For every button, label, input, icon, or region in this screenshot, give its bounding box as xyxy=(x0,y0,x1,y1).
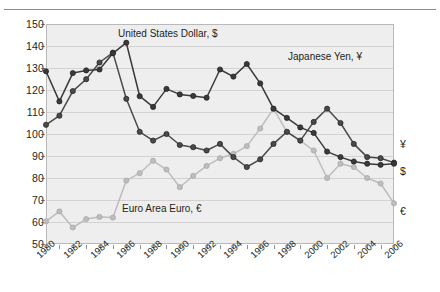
data-point xyxy=(204,148,209,153)
data-point xyxy=(338,120,343,125)
data-point xyxy=(258,157,263,162)
data-point xyxy=(311,119,316,124)
data-point xyxy=(97,67,102,72)
data-point xyxy=(84,77,89,82)
data-point xyxy=(244,61,249,66)
data-point xyxy=(271,141,276,146)
data-point xyxy=(57,99,62,104)
data-point xyxy=(84,68,89,73)
data-point xyxy=(217,156,222,161)
currency-index-line-chart: 5060708090100110120130140150 19801982198… xyxy=(0,0,440,292)
data-point xyxy=(378,162,383,167)
data-point xyxy=(217,67,222,72)
data-point xyxy=(365,155,370,160)
series-layer xyxy=(0,0,440,292)
data-point xyxy=(338,155,343,160)
data-point xyxy=(258,126,263,131)
series-line xyxy=(46,109,394,228)
data-point xyxy=(124,178,129,183)
data-point xyxy=(43,219,48,224)
data-point xyxy=(110,51,115,56)
data-point xyxy=(191,93,196,98)
data-point xyxy=(378,181,383,186)
data-point xyxy=(325,175,330,180)
series-€ xyxy=(43,106,396,230)
end-label-dollar: $ xyxy=(400,165,406,177)
data-point xyxy=(271,106,276,111)
data-point xyxy=(124,96,129,101)
data-point xyxy=(391,161,396,166)
data-point xyxy=(258,81,263,86)
data-point xyxy=(70,225,75,230)
data-point xyxy=(97,214,102,219)
data-point xyxy=(97,60,102,65)
data-point xyxy=(391,201,396,206)
data-point xyxy=(151,158,156,163)
data-point xyxy=(164,86,169,91)
data-point xyxy=(43,69,48,74)
annotation-japanese-yen: Japanese Yen, ¥ xyxy=(288,51,362,62)
data-point xyxy=(325,149,330,154)
data-point xyxy=(151,104,156,109)
data-point xyxy=(365,161,370,166)
data-point xyxy=(244,144,249,149)
data-point xyxy=(298,138,303,143)
end-label-yen: ¥ xyxy=(400,138,406,150)
data-point xyxy=(298,125,303,130)
data-point xyxy=(124,40,129,45)
data-point xyxy=(164,167,169,172)
data-point xyxy=(351,159,356,164)
data-point xyxy=(244,164,249,169)
annotation-euro-area-euro: Euro Area Euro, € xyxy=(122,203,202,214)
data-point xyxy=(217,141,222,146)
data-point xyxy=(70,89,75,94)
data-point xyxy=(110,215,115,220)
data-point xyxy=(231,74,236,79)
data-point xyxy=(338,161,343,166)
data-point xyxy=(191,173,196,178)
end-label-euro: € xyxy=(400,205,406,217)
data-point xyxy=(137,171,142,176)
data-point xyxy=(43,122,48,127)
data-point xyxy=(177,142,182,147)
data-point xyxy=(351,164,356,169)
data-point xyxy=(284,115,289,120)
data-point xyxy=(84,217,89,222)
data-point xyxy=(365,175,370,180)
data-point xyxy=(57,209,62,214)
annotation-united-states-dollar: United States Dollar, $ xyxy=(118,28,218,39)
data-point xyxy=(378,156,383,161)
data-point xyxy=(137,129,142,134)
data-point xyxy=(177,185,182,190)
data-point xyxy=(351,141,356,146)
data-point xyxy=(151,138,156,143)
data-point xyxy=(191,145,196,150)
data-point xyxy=(204,163,209,168)
data-point xyxy=(57,113,62,118)
data-point xyxy=(164,131,169,136)
data-point xyxy=(325,106,330,111)
data-point xyxy=(204,95,209,100)
data-point xyxy=(231,155,236,160)
data-point xyxy=(284,129,289,134)
data-point xyxy=(311,148,316,153)
data-point xyxy=(137,94,142,99)
data-point xyxy=(177,92,182,97)
data-point xyxy=(311,130,316,135)
data-point xyxy=(70,71,75,76)
